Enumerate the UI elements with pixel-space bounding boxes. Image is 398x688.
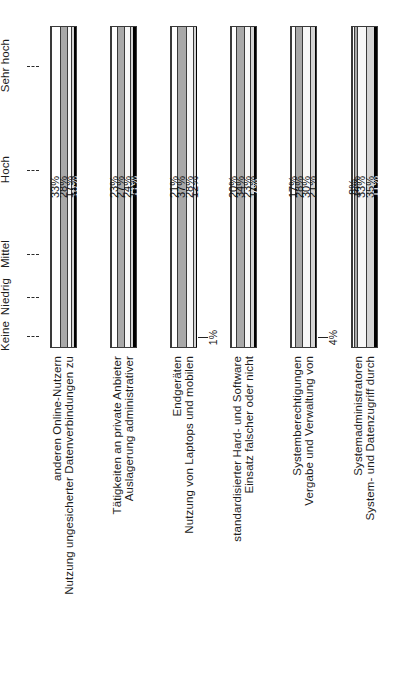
scale-axis: KeineNiedrigMittelHochSehr hoch xyxy=(0,18,40,348)
category-label-line: Systemberechtigungen xyxy=(292,356,304,476)
stacked-bar[interactable]: 11%35%33%14%8% xyxy=(351,26,378,348)
scale-tick-dash-icon xyxy=(27,297,39,298)
scale-tick-sehr-hoch: Sehr hoch xyxy=(0,57,40,75)
outside-value-callout: 1% xyxy=(198,330,219,345)
scale-tick-keine: Keine xyxy=(0,327,40,345)
segment-value-label: 23% xyxy=(109,176,120,198)
category-label-line: Nutzung von Laptops und mobilen xyxy=(184,356,196,534)
outside-value-callout: 4% xyxy=(318,330,339,345)
stacked-bar[interactable]: 1%12%28%37%21% xyxy=(170,26,197,348)
bar-group: 1%12%28%37%21% xyxy=(170,26,197,348)
bar-group: 4%21%30%28%17% xyxy=(290,26,317,348)
stacked-bar[interactable]: 10%11%17%28%33% xyxy=(50,26,77,348)
category-label: anderen Online-NutzernNutzung ungesicher… xyxy=(47,356,80,686)
scale-tick-hoch: Hoch xyxy=(0,161,40,179)
category-label: SystemadministratorenSystem- und Datenzu… xyxy=(348,356,381,686)
stacked-bar[interactable]: 7%17%23%34%20% xyxy=(230,26,257,348)
category-label: SystemberechtigungenVergabe und Verwaltu… xyxy=(287,356,320,686)
category-label: standardisierter Hard- und SoftwareEinsa… xyxy=(227,356,260,686)
category-label-line: Endgeräten xyxy=(172,356,184,416)
scale-tick-label: Hoch xyxy=(0,156,12,183)
bar-segment-sehr-hoch[interactable]: 23% xyxy=(111,27,117,347)
scale-tick-label: Mittel xyxy=(0,240,12,268)
segment-value-label: 17% xyxy=(288,176,299,198)
scale-tick-dash-icon xyxy=(27,170,39,171)
category-label: Tätigkeiten an private AnbieterAuslageru… xyxy=(107,356,140,686)
category-label-line: standardisierter Hard- und Software xyxy=(232,356,244,542)
category-label: EndgerätenNutzung von Laptops und mobile… xyxy=(167,356,200,686)
bar-segment-sehr-hoch[interactable]: 20% xyxy=(231,27,236,347)
category-label-area: anderen Online-NutzernNutzung ungesicher… xyxy=(44,356,396,686)
stacked-bar[interactable]: 11%15%24%27%23% xyxy=(110,26,137,348)
callout-value-label: 4% xyxy=(328,330,339,345)
category-label-line: anderen Online-Nutzern xyxy=(52,356,64,481)
scale-tick-mittel: Mittel xyxy=(0,245,40,263)
bar-segment-sehr-hoch[interactable]: 17% xyxy=(291,27,295,347)
segment-value-label: 33% xyxy=(50,176,61,198)
category-label-line: Auslagerung administrativer xyxy=(124,356,136,501)
bar-group: 11%35%33%14%8% xyxy=(351,26,378,348)
bar-group: 7%17%23%34%20% xyxy=(230,26,257,348)
category-label-line: Tätigkeiten an private Anbieter xyxy=(112,356,124,514)
bar-segment-sehr-hoch[interactable]: 8% xyxy=(352,27,354,347)
category-label-line: Nutzung ungesicherter Datenverbindungen … xyxy=(64,356,76,595)
scale-tick-label: Keine xyxy=(0,321,12,351)
segment-value-label: 8% xyxy=(348,179,359,195)
scale-tick-dash-icon xyxy=(27,336,39,337)
category-label-line: Vergabe und Verwaltung von xyxy=(304,356,316,506)
stacked-bar-plot: 10%11%17%28%33%11%15%24%27%23%1%12%28%37… xyxy=(44,26,396,348)
callout-value-label: 1% xyxy=(208,330,219,345)
segment-value-label: 20% xyxy=(228,176,239,198)
scale-tick-niedrig: Niedrig xyxy=(0,288,40,306)
bar-segment-sehr-hoch[interactable]: 33% xyxy=(51,27,59,347)
scale-tick-dash-icon xyxy=(27,66,39,67)
stacked-bar[interactable]: 4%21%30%28%17% xyxy=(290,26,317,348)
bar-segment-sehr-hoch[interactable]: 21% xyxy=(171,27,176,347)
category-label-line: System- und Datenzugriff durch xyxy=(365,356,377,521)
scale-tick-dash-icon xyxy=(27,254,39,255)
segment-value-label: 21% xyxy=(169,176,180,198)
category-label-line: Systemadministratoren xyxy=(353,356,365,476)
scale-tick-label: Sehr hoch xyxy=(0,39,12,92)
bar-group: 10%11%17%28%33% xyxy=(50,26,77,348)
scale-tick-label: Niedrig xyxy=(0,278,12,315)
category-label-line: Einsatz falscher oder nicht xyxy=(244,356,256,494)
bar-group: 11%15%24%27%23% xyxy=(110,26,137,348)
